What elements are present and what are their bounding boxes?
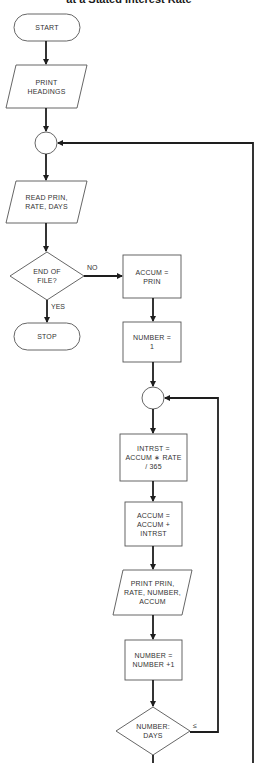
- inner-loop-junction: [142, 387, 164, 409]
- number-increment-label: NUMBER = NUMBER +1: [125, 651, 182, 669]
- number-init-label: NUMBER = 1: [123, 333, 181, 351]
- end-of-file-label: END OF FILE?: [10, 267, 84, 285]
- no-branch-label: NO: [87, 264, 98, 271]
- less-equal-label: ≤: [193, 722, 197, 729]
- flowchart-diagram: at a Stated Interest Rate: [0, 0, 258, 763]
- print-headings-label: PRINT HEADINGS: [6, 78, 87, 96]
- stop-label: STOP: [14, 332, 80, 341]
- print-line-label: PRINT PRIN, RATE, NUMBER, ACCUM: [113, 579, 192, 606]
- outer-loop-junction: [35, 132, 57, 154]
- start-label: START: [14, 23, 80, 32]
- flowchart-canvas: [0, 0, 258, 763]
- intrst-label: INTRST = ACCUM ∗ RATE / 365: [120, 444, 187, 471]
- accum-prin-label: ACCUM = PRIN: [123, 268, 181, 286]
- yes-branch-label: YES: [51, 303, 65, 310]
- read-label: READ PRIN, RATE, DAYS: [6, 193, 87, 211]
- number-days-label: NUMBER: DAYS: [116, 722, 190, 740]
- accum-add-label: ACCUM = ACCUM + INTRST: [125, 511, 182, 538]
